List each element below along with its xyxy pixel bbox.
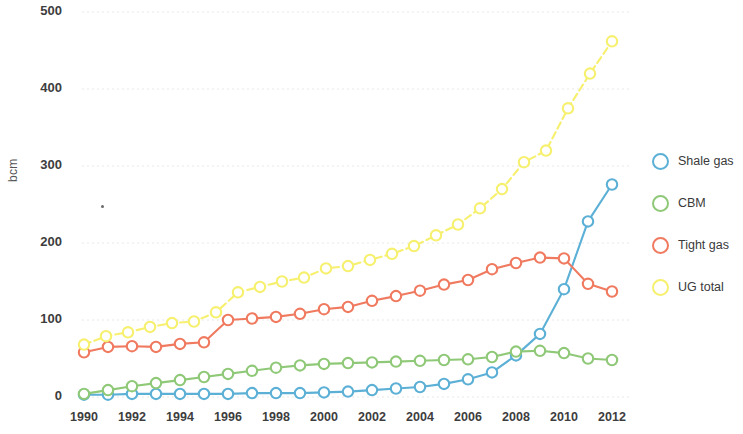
data-point (299, 272, 309, 282)
data-point (189, 316, 199, 326)
data-point (367, 357, 377, 367)
data-point (277, 276, 287, 286)
data-point (319, 387, 329, 397)
data-point (365, 255, 375, 265)
data-point (607, 286, 617, 296)
data-point (511, 258, 521, 268)
data-point (223, 369, 233, 379)
data-point (101, 331, 111, 341)
chart-plot-area (0, 0, 743, 434)
x-axis-tick-label: 2004 (406, 410, 434, 424)
data-point (211, 307, 221, 317)
data-point (233, 287, 243, 297)
legend-item-cbm[interactable]: CBM (652, 182, 743, 224)
data-point (511, 346, 521, 356)
data-point (439, 379, 449, 389)
data-point (343, 386, 353, 396)
data-point (103, 385, 113, 395)
x-axis-tick-label: 2002 (358, 410, 386, 424)
data-point (391, 383, 401, 393)
data-point (175, 339, 185, 349)
data-point (583, 216, 593, 226)
data-point (295, 309, 305, 319)
data-point (409, 241, 419, 251)
data-point (319, 304, 329, 314)
legend-item-shale-gas[interactable]: Shale gas (652, 140, 743, 182)
data-point (167, 318, 177, 328)
data-point (151, 378, 161, 388)
data-point (271, 312, 281, 322)
data-point (391, 291, 401, 301)
data-point (439, 279, 449, 289)
data-point (453, 219, 463, 229)
data-point (295, 388, 305, 398)
data-point (487, 264, 497, 274)
data-point (497, 184, 507, 194)
legend-marker-icon (652, 279, 669, 296)
data-point (607, 179, 617, 189)
data-point (175, 389, 185, 399)
data-point (415, 356, 425, 366)
chart-legend: Shale gasCBMTight gasUG total (652, 140, 743, 308)
data-point (145, 322, 155, 332)
data-point (321, 263, 331, 273)
data-point (391, 356, 401, 366)
data-point (583, 279, 593, 289)
data-point (199, 337, 209, 347)
data-point (151, 342, 161, 352)
data-point (607, 355, 617, 365)
legend-item-label: CBM (678, 196, 706, 210)
data-point (271, 388, 281, 398)
data-point (175, 375, 185, 385)
data-point (271, 363, 281, 373)
data-point (463, 374, 473, 384)
data-point (319, 359, 329, 369)
data-point (487, 352, 497, 362)
data-point (559, 348, 569, 358)
x-axis-tick-label: 1994 (166, 410, 194, 424)
stray-mark (101, 205, 104, 208)
data-point (463, 275, 473, 285)
data-point (79, 389, 89, 399)
x-axis-tick-label: 2006 (454, 410, 482, 424)
data-point (559, 253, 569, 263)
x-axis-tick-label: 2008 (502, 410, 530, 424)
x-axis-tick-label: 2010 (550, 410, 578, 424)
x-axis-tick-label: 2000 (310, 410, 338, 424)
data-point (199, 389, 209, 399)
data-point (387, 249, 397, 259)
data-point (415, 286, 425, 296)
series-line (84, 41, 612, 344)
data-point (367, 296, 377, 306)
data-point (487, 367, 497, 377)
legend-marker-icon (652, 153, 669, 170)
data-point (103, 342, 113, 352)
data-point (585, 68, 595, 78)
data-point (199, 372, 209, 382)
data-point (563, 103, 573, 113)
legend-item-label: UG total (678, 280, 724, 294)
data-point (463, 354, 473, 364)
data-point (123, 327, 133, 337)
data-point (519, 157, 529, 167)
data-point (535, 252, 545, 262)
x-axis-tick-label: 1992 (118, 410, 146, 424)
data-point (247, 388, 257, 398)
data-point (343, 302, 353, 312)
legend-item-tight-gas[interactable]: Tight gas (652, 224, 743, 266)
data-point (247, 366, 257, 376)
data-point (127, 381, 137, 391)
data-point (223, 389, 233, 399)
data-point (295, 360, 305, 370)
data-point (255, 282, 265, 292)
data-point (535, 346, 545, 356)
legend-item-ug-total[interactable]: UG total (652, 266, 743, 308)
legend-item-label: Tight gas (678, 238, 729, 252)
data-point (367, 385, 377, 395)
data-point (343, 261, 353, 271)
data-point (559, 284, 569, 294)
legend-marker-icon (652, 237, 669, 254)
data-point (583, 353, 593, 363)
x-axis-tick-label: 1996 (214, 410, 242, 424)
legend-marker-icon (652, 195, 669, 212)
